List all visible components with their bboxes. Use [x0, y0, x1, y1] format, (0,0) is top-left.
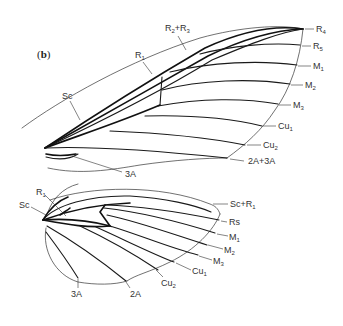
forewing-outer-margin: [227, 29, 303, 158]
panel-label: (b): [37, 48, 51, 61]
wing-venation-diagram: (b): [0, 0, 343, 326]
hindwing-vein-3A: [46, 232, 78, 278]
hindwing-vein-ScR1: [43, 196, 211, 220]
label-forewing-R5: R5: [313, 41, 324, 52]
forewing-vein-Cu1: [145, 116, 262, 126]
hindwing-vein-Rs: [105, 205, 219, 220]
label-forewing-M1: M1: [313, 61, 325, 72]
hindwing-vein-Cu1: [96, 227, 174, 262]
label-forewing-M2: M2: [305, 80, 317, 91]
label-forewing-R1: R1: [135, 50, 146, 61]
label-forewing-R4: R4: [316, 24, 327, 35]
label-hindwing-Sc: Sc: [19, 200, 30, 210]
forewing-vein-M3: [158, 100, 278, 106]
label-forewing-Sc: Sc: [62, 91, 73, 101]
label-hindwing-R1: R1: [36, 187, 47, 198]
forewing-crossvein: [160, 77, 162, 105]
label-forewing-M3: M3: [293, 100, 305, 111]
label-forewing-Cu2: Cu2: [263, 140, 279, 151]
label-hindwing-M3: M3: [213, 256, 225, 267]
label-hindwing-3A: 3A: [71, 289, 82, 299]
hindwing-discal-cell: [43, 205, 110, 226]
label-forewing-3A: 3A: [125, 169, 136, 179]
forewing-inner-margin: [48, 158, 227, 171]
forewing-vein-3A: [46, 154, 76, 156]
label-forewing-2A3A: 2A+3A: [248, 156, 275, 166]
label-hindwing-ScR1: Sc+R1: [230, 199, 256, 210]
forewing-vein-Cu2: [110, 131, 245, 145]
label-hindwing-Rs: Rs: [229, 217, 240, 227]
label-hindwing-M1: M1: [229, 232, 241, 243]
label-forewing-Cu1: Cu1: [278, 121, 294, 132]
hindwing-vein-M3: [110, 226, 198, 255]
hindwing-anal-margin: [45, 228, 127, 284]
label-hindwing-Cu2: Cu2: [161, 278, 177, 289]
hindwing-vein-Cu2: [80, 226, 158, 270]
label-forewing-R2R3: R2+R3: [165, 23, 191, 34]
label-hindwing-M2: M2: [224, 245, 236, 256]
label-hindwing-Cu1: Cu1: [192, 266, 208, 277]
label-hindwing-2A: 2A: [130, 289, 141, 299]
forewing-vein-Sc: [45, 28, 303, 148]
forewing-vein-M2: [162, 81, 290, 90]
hindwing-vein-2A: [47, 226, 126, 281]
